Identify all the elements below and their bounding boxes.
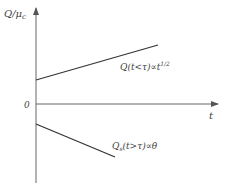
upper-line-label: Q(t<τ)∝t1/2: [120, 60, 170, 72]
origin-label: 0: [24, 100, 30, 110]
diagram-canvas: Q/μc 0 t Q(t<τ)∝t1/2 Qs(t>τ)∝θ: [0, 0, 228, 189]
x-axis-label: t: [209, 110, 214, 121]
lower-line-label: Qs(t>τ)∝θ: [112, 141, 158, 152]
y-axis-label: Q/μc: [4, 8, 26, 21]
lower-line: [36, 124, 115, 157]
